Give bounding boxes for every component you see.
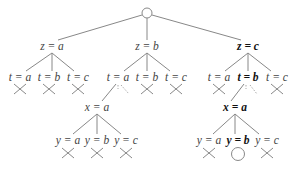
cross-icon (141, 84, 153, 94)
tree-edge (58, 15, 142, 40)
cross-icon (170, 84, 182, 94)
tree-edge (73, 114, 97, 134)
cross-icon (203, 148, 215, 158)
cross-icon (91, 148, 103, 158)
cross-icon (43, 84, 55, 94)
tree-edge (97, 114, 121, 134)
tree-edge (52, 53, 74, 71)
node-label-z-c-t-b: t = b (237, 72, 258, 84)
root-circle-icon (142, 8, 152, 18)
cross-icon (120, 148, 132, 158)
cross-icon (62, 148, 74, 158)
node-label-mid-y-c: y = c (114, 135, 138, 147)
node-label-z-b-t-b: t = b (136, 72, 158, 84)
solution-circle-icon (232, 148, 245, 161)
cross-icon (14, 84, 26, 94)
node-label-z-c-t-a: t = a (208, 72, 230, 84)
tree-edge (102, 84, 116, 101)
node-label-mid-x-a: x = a (85, 102, 109, 114)
node-label-right-y-b: y = b (226, 135, 249, 147)
node-label-z-b-t-a: t = a (107, 72, 129, 84)
tree-edge (124, 53, 147, 71)
tree-edge (248, 53, 271, 71)
tree-edge (231, 84, 244, 101)
dashed-edge (250, 85, 257, 94)
node-label-z-a: z = a (40, 41, 64, 53)
node-label-right-y-a: y = a (197, 135, 221, 147)
cross-icon (261, 148, 273, 158)
node-label-z-b: z = b (135, 41, 159, 53)
tree-edges (0, 0, 295, 169)
search-tree-diagram: z = az = bz = ct = at = bt = ct = at = b… (0, 0, 295, 169)
tree-edge (225, 53, 248, 71)
tree-edge (26, 53, 52, 71)
node-label-z-c: z = c (237, 41, 259, 53)
node-label-z-b-t-c: t = c (165, 72, 187, 84)
node-label-z-a-t-a: t = a (9, 72, 31, 84)
node-label-z-c-t-c: t = c (266, 72, 288, 84)
tree-edge (152, 15, 241, 40)
cross-icon (271, 84, 283, 94)
node-label-z-a-t-b: t = b (38, 72, 60, 84)
dashed-edge (121, 85, 129, 94)
cross-icon (213, 84, 225, 94)
cross-icon (72, 84, 84, 94)
node-label-right-x-a: x = a (223, 102, 247, 114)
tree-edge (235, 114, 259, 134)
node-label-mid-y-a: y = a (56, 135, 80, 147)
tree-edge (213, 114, 235, 134)
node-label-mid-y-b: y = b (85, 135, 109, 147)
node-label-z-a-t-c: t = c (67, 72, 89, 84)
tree-edge (147, 53, 170, 71)
node-label-right-y-c: y = c (255, 135, 279, 147)
